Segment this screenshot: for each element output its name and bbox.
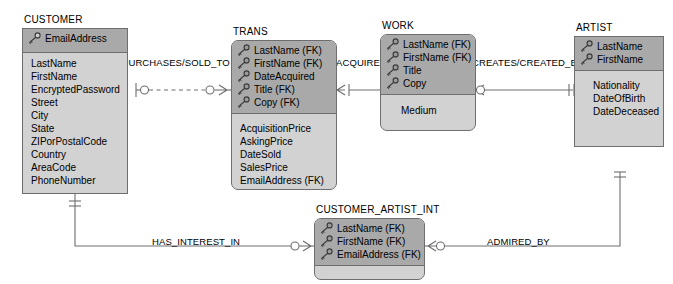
entity-artist[interactable]: ARTIST LastName FirstName Nationality [574, 36, 664, 147]
attribute-key: LastName (FK) [232, 44, 336, 57]
attribute-row: Medium [381, 104, 475, 117]
key-icon [579, 40, 594, 53]
nonkey-section-work: Medium [381, 95, 475, 121]
attribute-row: FirstName [23, 70, 127, 83]
er-diagram-canvas: .ln{stroke:#6e6e6e;stroke-width:1.1;fill… [0, 0, 673, 284]
attribute-row: AskingPrice [232, 135, 336, 148]
attribute-key: LastName (FK) [381, 38, 475, 51]
attribute-row: EmailAddress (FK) [232, 174, 336, 187]
relationship-label-purchases-sold-to: PURCHASES/SOLD_TO [122, 57, 230, 68]
attribute-row: ZIPorPostalCode [23, 135, 127, 148]
entity-box-customer: EmailAddress LastName FirstName Encrypte… [22, 28, 128, 194]
key-icon [319, 235, 334, 248]
attribute-key: DateAcquired [232, 70, 336, 83]
nonkey-section-customer-artist-int [315, 266, 424, 274]
attribute-row: EncryptedPassword [23, 83, 127, 96]
key-icon [385, 77, 400, 90]
entity-title-customer-artist-int: CUSTOMER_ARTIST_INT [316, 204, 439, 215]
attribute-row: PhoneNumber [23, 174, 127, 187]
attribute-key: Copy (FK) [232, 96, 336, 109]
entity-title-artist: ARTIST [576, 22, 613, 33]
connector-purchases-sold-to [136, 83, 231, 97]
key-section-work: LastName (FK) FirstName (FK) Title [381, 35, 475, 95]
connector-creates-created-by [472, 84, 574, 96]
attribute-row: AcquisitionPrice [232, 122, 336, 135]
entity-box-customer-artist-int: LastName (FK) FirstName (FK) EmailAddres… [314, 218, 425, 280]
key-icon [579, 53, 594, 66]
attribute-row: LastName [23, 57, 127, 70]
attribute-key: FirstName (FK) [315, 235, 424, 248]
attribute-row: Nationality [575, 79, 663, 92]
attribute-key: LastName [575, 40, 663, 53]
attribute-key: EmailAddress (FK) [315, 248, 424, 261]
relationship-label-admired-by: ADMIRED_BY [487, 236, 550, 247]
key-icon [27, 32, 42, 45]
attribute-row: Country [23, 148, 127, 161]
entity-box-work: LastName (FK) FirstName (FK) Title [380, 34, 476, 131]
entity-title-trans: TRANS [233, 26, 268, 37]
attribute-key: Title [381, 64, 475, 77]
key-icon [236, 57, 251, 70]
key-icon [236, 70, 251, 83]
relationship-label-has-interest-in: HAS_INTEREST_IN [152, 236, 240, 247]
key-icon [385, 38, 400, 51]
key-section-trans: LastName (FK) FirstName (FK) DateAcquire… [232, 41, 336, 114]
key-section-artist: LastName FirstName [575, 37, 663, 71]
key-icon [385, 51, 400, 64]
attribute-key: FirstName [575, 53, 663, 66]
key-icon [236, 83, 251, 96]
key-section-customer: EmailAddress [23, 29, 127, 53]
nonkey-section-artist: Nationality DateOfBirth DateDeceased [575, 71, 663, 122]
key-icon [319, 248, 334, 261]
nonkey-section-customer: LastName FirstName EncryptedPassword Str… [23, 53, 127, 191]
key-icon [319, 222, 334, 235]
attribute-row: DateSold [232, 148, 336, 161]
key-icon [236, 44, 251, 57]
attribute-key: Title (FK) [232, 83, 336, 96]
entity-customer-artist-int[interactable]: CUSTOMER_ARTIST_INT LastName (FK) FirstN… [314, 218, 425, 280]
attribute-key: Copy [381, 77, 475, 90]
key-icon [236, 96, 251, 109]
attribute-row: Street [23, 96, 127, 109]
entity-title-customer: CUSTOMER [24, 14, 83, 25]
attribute-row: AreaCode [23, 161, 127, 174]
key-icon [385, 64, 400, 77]
attribute-row: DateDeceased [575, 105, 663, 118]
entity-box-artist: LastName FirstName Nationality DateOfBir… [574, 36, 664, 147]
entity-trans[interactable]: TRANS LastName (FK) FirstName (FK) [231, 40, 337, 190]
attribute-row: City [23, 109, 127, 122]
attribute-key: FirstName (FK) [381, 51, 475, 64]
attribute-key: EmailAddress [23, 32, 127, 45]
nonkey-section-trans: AcquisitionPrice AskingPrice DateSold Sa… [232, 114, 336, 191]
entity-box-trans: LastName (FK) FirstName (FK) DateAcquire… [231, 40, 337, 190]
attribute-row: SalesPrice [232, 161, 336, 174]
relationship-label-creates-created-by: CREATES/CREATED_BY [472, 57, 583, 68]
key-section-customer-artist-int: LastName (FK) FirstName (FK) EmailAddres… [315, 219, 424, 266]
entity-work[interactable]: WORK LastName (FK) FirstName (FK) [380, 34, 476, 131]
entity-customer[interactable]: CUSTOMER EmailAddress [22, 28, 128, 194]
attribute-row: DateOfBirth [575, 92, 663, 105]
attribute-row: State [23, 122, 127, 135]
attribute-key: FirstName (FK) [232, 57, 336, 70]
attribute-key: LastName (FK) [315, 222, 424, 235]
entity-title-work: WORK [382, 20, 414, 31]
